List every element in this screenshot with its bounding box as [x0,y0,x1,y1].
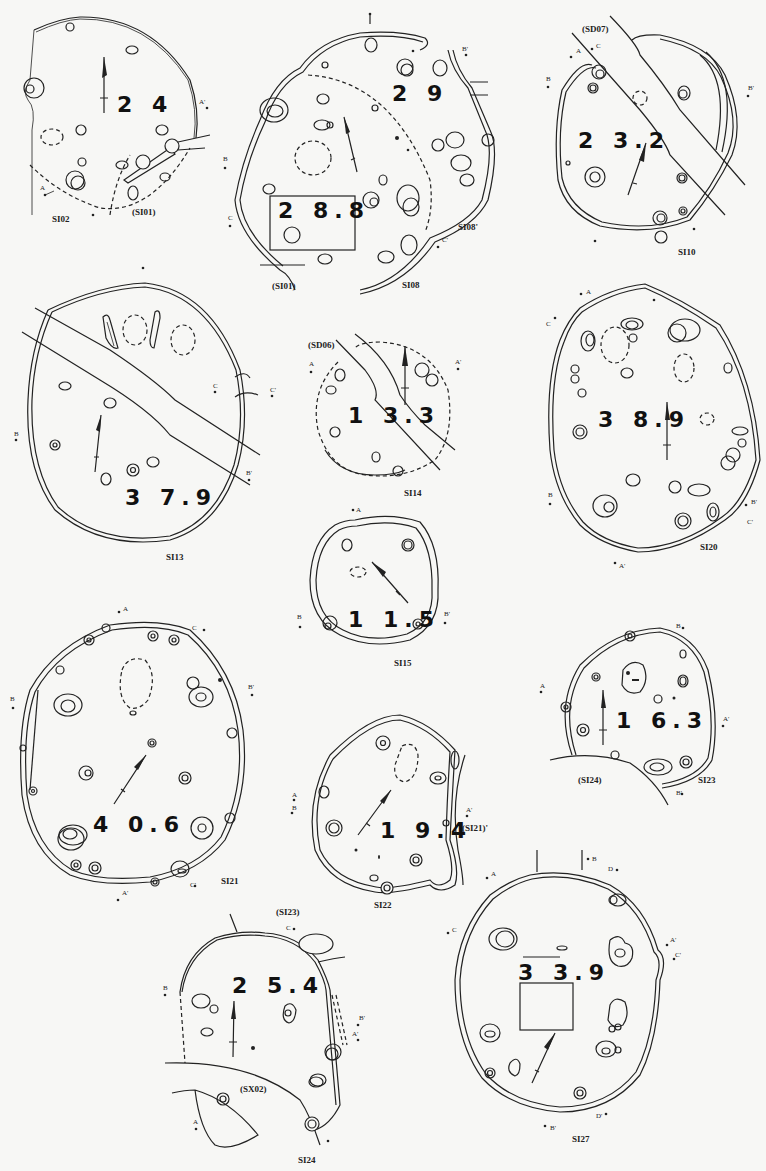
section-mark-b: B [592,855,597,863]
plan-si13: 3 7.9 SI13 B C C' B' [0,260,290,560]
si27-area-value: 3 3.9 [518,960,610,985]
si10-label: SI10 [678,247,696,257]
section-mark-b: B [297,613,302,621]
section-mark-b-prime: B' [359,1014,365,1022]
section-mark-b: B [163,984,168,992]
section-mark-a-prime: A' [199,98,205,106]
section-mark-b: B [676,622,681,630]
si02-outline [0,0,240,240]
section-mark-c-prime: C' [190,881,196,889]
section-mark-b: B [14,430,19,438]
plan-si20: 3 8.9 SI20 A C B B' C' A' [520,280,766,580]
section-mark-b: B [10,695,15,703]
section-mark-a-prime: A' [455,358,461,366]
section-mark-b: B [223,155,228,163]
si27-outline [420,850,700,1171]
si08-inner-area-value: 2 8.8 [278,198,370,223]
section-mark-b-prime: B' [246,469,252,477]
section-mark-a: A [193,1118,198,1126]
section-mark-c: C [192,624,197,632]
section-mark-c-prime: C' [270,386,276,394]
si23-related-label: (SI23) [276,907,300,917]
section-mark-b-prime: B' [462,45,468,53]
si24-area-value: 2 5.4 [232,973,324,998]
section-mark-a: A [309,360,314,368]
si08-area-value: 2 9 [392,81,448,106]
si20-area-value: 3 8.9 [598,407,690,432]
section-mark-c-prime: C' [747,518,753,526]
section-mark-c-prime: C' [675,951,681,959]
section-mark-b-prime: B' [550,1124,556,1132]
si27-label: SI27 [572,1134,590,1144]
plan-si10: (SD07) 2 3.2 SI10 B B' A C [520,0,766,260]
si01-related-label: (SI01) [132,207,156,217]
si20-label: SI20 [700,542,718,552]
si13-outline [0,260,290,560]
section-mark-a-prime: A' [352,1030,358,1038]
si21-related-label: (SI21)' [462,823,488,833]
section-mark-a: A [356,506,361,514]
plan-si08: 2 9 2 8.8 SI08 SI08' (SI01) B C C' B' [220,0,520,300]
section-mark-b: B [546,75,551,83]
plan-si23: 1 6.3 SI23 (SI24) A A' B B' [520,610,766,810]
section-mark-b-prime: B' [748,84,754,92]
si10-area-value: 2 3.2 [578,128,670,153]
si02-area-value: 2 4 [117,92,173,117]
plan-si15: 1 1.5 B B' A SI15 [280,470,480,650]
section-mark-a-prime: A' [723,715,729,723]
section-mark-a-prime: A' [670,936,676,944]
si21-outline [0,590,270,900]
si24-outline [140,900,400,1171]
si15-label: SI15 [394,658,412,668]
section-mark-a: A [292,791,297,799]
si21-area-value: 4 0.6 [93,812,185,837]
si24-label: SI24 [298,1155,316,1165]
sd06-related-label: (SD06) [308,340,335,350]
section-mark-b: B [292,804,297,812]
plan-si24: (SI23) 2 5.4 (SX02) SI24 B B' A' C A [140,900,400,1171]
si15-area-value: 1 1.5 [348,607,440,632]
section-mark-c: C [546,320,551,328]
sx02-related-label: (SX02) [240,1084,267,1094]
plan-si02: 2 4 SI02 (SI01) A A' [0,0,240,240]
si08-label: SI08 [402,280,420,290]
section-mark-a: A [576,47,581,55]
section-mark-c: C [213,382,218,390]
section-mark-b-prime: B' [444,610,450,618]
section-mark-c: C [228,214,233,222]
section-mark-d-prime: D' [596,1112,602,1120]
plan-si21: 4 0.6 SI21 A C B B' C' A' [0,590,270,900]
si23-area-value: 1 6.3 [616,708,708,733]
si08-prime-label: SI08' [458,222,478,232]
section-mark-b-prime: B' [676,789,682,797]
si08-outline [220,0,520,300]
plan-si27: 3 3.9 SI27 A C B D A' C' D' B' [420,850,700,1171]
si23-label: SI23 [698,775,716,785]
sd07-related-label: (SD07) [582,24,609,34]
section-mark-a-prime: A' [619,562,625,570]
section-mark-c: C [596,42,601,50]
si14-area-value: 1 3.3 [348,403,440,428]
section-mark-b-prime: B' [248,683,254,691]
section-mark-a: A [540,682,545,690]
si02-label: SI02 [52,214,70,224]
si24-related-label: (SI24) [578,775,602,785]
section-mark-a: A [123,605,128,613]
section-mark-a: A [40,184,45,192]
section-mark-a: A [586,288,591,296]
section-mark-b-prime: B' [751,498,757,506]
section-mark-a-prime: A' [466,806,472,814]
section-mark-a: A [491,870,496,878]
si13-label: SI13 [166,552,184,562]
si22-area-value: 1 9.4 [380,818,472,843]
si21-label: SI21 [221,876,239,886]
section-mark-b: B [548,491,553,499]
si13-area-value: 3 7.9 [125,485,217,510]
section-mark-c: C [452,926,457,934]
section-mark-c-prime: C' [442,236,448,244]
section-mark-a-prime: A' [122,889,128,897]
section-mark-d: D [608,865,613,873]
section-mark-c: C [286,924,291,932]
